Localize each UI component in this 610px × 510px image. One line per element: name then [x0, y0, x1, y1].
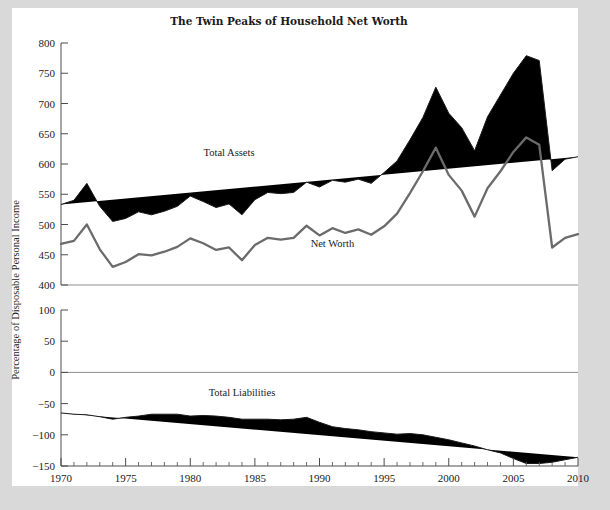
page-root: The Twin Peaks of Household Net Worth Pe… [0, 0, 610, 510]
x-tick-label: 2005 [502, 472, 525, 484]
y-axis-title: Percentage of Disposable Personal Income [10, 200, 21, 380]
lower-y-tick-label: −100 [32, 429, 55, 441]
x-tick-label: 2010 [567, 472, 590, 484]
upper-y-tick-label: 650 [39, 128, 56, 140]
series-label-total-liabilities: Total Liabilities [209, 387, 276, 398]
upper-y-tick-label: 550 [39, 188, 56, 200]
lower-panel: −150−100−50050100Total Liabilities [32, 304, 578, 472]
series-line-total-liabilities [61, 413, 578, 464]
upper-y-tick-label: 400 [39, 279, 56, 291]
series-label-net-worth: Net Worth [311, 238, 355, 249]
series-line-total-assets [61, 56, 578, 222]
lower-y-tick-label: 0 [50, 366, 56, 378]
upper-y-tick-label: 800 [39, 37, 56, 49]
x-tick-label: 1980 [179, 472, 202, 484]
lower-y-tick-label: 100 [39, 304, 56, 316]
x-tick-label: 1985 [244, 472, 267, 484]
lower-y-tick-label: −150 [32, 460, 55, 472]
lower-y-tick-label: 50 [44, 335, 56, 347]
upper-y-tick-label: 450 [39, 249, 56, 261]
x-tick-label: 1990 [309, 472, 332, 484]
lower-y-tick-label: −50 [38, 398, 56, 410]
twin-peaks-line-chart: The Twin Peaks of Household Net Worth Pe… [0, 0, 610, 510]
upper-y-tick-label: 600 [39, 158, 56, 170]
upper-panel: 400450500550600650700750800Total AssetsN… [39, 37, 579, 291]
series-label-total-assets: Total Assets [204, 147, 255, 158]
x-tick-label: 1970 [50, 472, 73, 484]
x-axis: 197019751980198519901995200020052010 [50, 458, 590, 484]
upper-y-tick-label: 700 [39, 98, 56, 110]
chart-title: The Twin Peaks of Household Net Worth [170, 15, 408, 27]
upper-y-tick-label: 750 [39, 67, 56, 79]
chart-figure: The Twin Peaks of Household Net Worth Pe… [0, 0, 610, 510]
x-tick-label: 1975 [115, 472, 138, 484]
x-tick-label: 1995 [373, 472, 396, 484]
x-tick-label: 2000 [438, 472, 461, 484]
upper-y-tick-label: 500 [39, 219, 56, 231]
